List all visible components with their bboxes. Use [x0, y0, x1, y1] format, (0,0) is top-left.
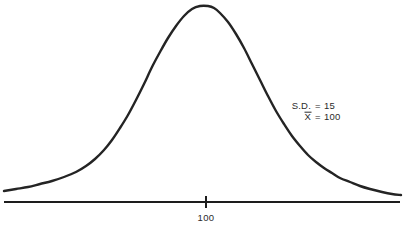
sd-label: S.D.	[292, 100, 311, 111]
sd-value: 15	[324, 100, 335, 111]
bell-curve-path	[4, 6, 401, 195]
x-axis-tick-label: 100	[198, 212, 215, 223]
mean-value: 100	[324, 111, 340, 122]
normal-distribution-figure: 100 S.D. = 15 X = 100	[0, 0, 405, 230]
mean-equals-sign: =	[315, 111, 321, 122]
sd-equals-sign: =	[315, 100, 321, 111]
distribution-chart-canvas: 100 S.D. = 15 X = 100	[0, 0, 405, 230]
